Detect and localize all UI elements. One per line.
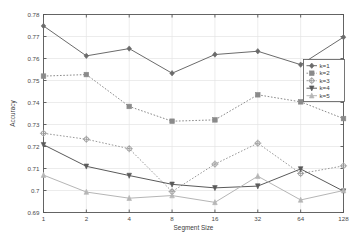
- y-tick-label: 0.76: [27, 55, 40, 62]
- grid-lines: [44, 15, 344, 213]
- marker-diamond: [84, 53, 89, 58]
- series-k2: [41, 72, 346, 123]
- x-tick-label: 32: [254, 215, 261, 222]
- series-line: [44, 175, 344, 202]
- series-line: [44, 145, 344, 191]
- legend-entry-label: k=5: [320, 92, 331, 99]
- data-point-marker: [127, 104, 132, 109]
- legend-entry-label: k=4: [320, 84, 331, 91]
- x-tick-label: 128: [338, 215, 349, 222]
- legend-entry-label: k=1: [320, 62, 331, 69]
- data-point-marker: [255, 49, 260, 54]
- marker-diamond: [127, 46, 132, 51]
- data-point-marker: [41, 74, 46, 79]
- marker-diamond: [213, 52, 218, 57]
- y-tick-label: 0.74: [27, 99, 40, 106]
- plot-frame: [44, 15, 344, 213]
- legend-entry-label: k=2: [320, 69, 331, 76]
- y-tick-label: 0.77: [27, 33, 40, 40]
- legend-entry-label: k=3: [320, 77, 331, 84]
- marker-diamond: [255, 49, 260, 54]
- y-tick-labels: 0.690.70.710.720.730.740.750.760.770.78: [27, 11, 40, 216]
- marker-square: [41, 74, 46, 79]
- y-tick-label: 0.75: [27, 77, 40, 84]
- marker-square: [309, 71, 314, 76]
- marker-square: [341, 116, 346, 121]
- line-chart-canvas: 0.690.70.710.720.730.740.750.760.770.78 …: [0, 0, 351, 238]
- series-group: [40, 23, 347, 204]
- data-point-marker: [170, 71, 175, 76]
- data-point-marker: [341, 116, 346, 121]
- data-point-marker: [254, 140, 261, 147]
- x-tick-label: 2: [85, 215, 89, 222]
- marker-square: [213, 118, 218, 123]
- x-tick-label: 4: [127, 215, 131, 222]
- data-point-marker: [309, 71, 314, 76]
- data-point-marker: [170, 119, 175, 124]
- series-line: [44, 133, 344, 191]
- series-line: [44, 75, 344, 122]
- y-tick-label: 0.72: [27, 143, 40, 150]
- data-point-marker: [84, 72, 89, 77]
- y-axis-title: Accuracy: [9, 100, 17, 127]
- series-k3: [40, 130, 347, 196]
- data-point-marker: [84, 53, 89, 58]
- marker-triangle-up: [41, 172, 46, 177]
- x-tick-label: 64: [297, 215, 304, 222]
- series-k5: [41, 172, 346, 204]
- data-point-marker: [255, 173, 260, 178]
- series-k1: [41, 23, 346, 76]
- marker-square: [255, 93, 260, 98]
- data-point-marker: [298, 100, 303, 105]
- x-axis-title: Segment Size: [174, 224, 214, 232]
- marker-square: [170, 119, 175, 124]
- x-tick-label: 8: [170, 215, 174, 222]
- series-line: [44, 26, 344, 73]
- data-point-marker: [213, 118, 218, 123]
- y-tick-label: 0.7: [31, 187, 40, 194]
- data-point-marker: [41, 172, 46, 177]
- data-point-marker: [213, 52, 218, 57]
- marker-square: [298, 100, 303, 105]
- marker-diamond: [170, 71, 175, 76]
- marker-diamond: [298, 62, 303, 67]
- data-point-marker: [83, 136, 90, 143]
- marker-square: [84, 72, 89, 77]
- marker-square: [127, 104, 132, 109]
- y-tick-label: 0.78: [27, 11, 40, 18]
- data-point-marker: [298, 62, 303, 67]
- data-point-marker: [341, 34, 346, 39]
- marker-diamond: [341, 34, 346, 39]
- data-point-marker: [41, 23, 46, 28]
- chart-figure: 0.690.70.710.720.730.740.750.760.770.78 …: [0, 0, 351, 238]
- x-tick-label: 16: [211, 215, 218, 222]
- marker-diamond: [41, 23, 46, 28]
- legend-box: k=1k=2k=3k=4k=5: [304, 60, 345, 102]
- x-tick-labels: 1248163264128: [42, 215, 349, 222]
- x-tick-label: 1: [42, 215, 46, 222]
- y-tick-label: 0.69: [27, 209, 40, 216]
- data-point-marker: [255, 93, 260, 98]
- axes-frame: [44, 15, 344, 213]
- data-point-marker: [127, 46, 132, 51]
- marker-triangle-up: [255, 173, 260, 178]
- data-point-marker: [211, 161, 218, 168]
- data-point-marker: [40, 130, 47, 137]
- y-tick-label: 0.71: [27, 165, 40, 172]
- y-tick-label: 0.73: [27, 121, 40, 128]
